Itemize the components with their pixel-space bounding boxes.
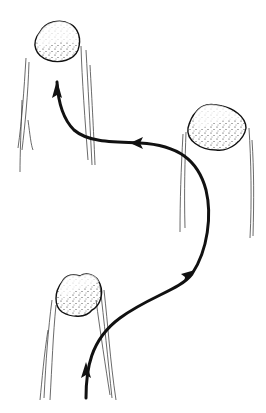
pillar-top xyxy=(18,21,95,172)
diagram-svg xyxy=(0,0,266,413)
pillar-middle xyxy=(180,104,254,238)
pillar-lines xyxy=(18,46,95,172)
diagram-canvas xyxy=(0,0,266,413)
arrow-path xyxy=(52,80,209,398)
pillar-bottom xyxy=(40,274,116,400)
